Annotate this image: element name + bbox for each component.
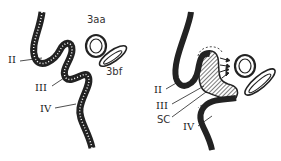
swollen-region	[199, 51, 238, 100]
label-III-right: III	[156, 100, 168, 111]
structure-elongated-right	[242, 65, 279, 99]
left-panel: II III IV 3aa 3bf	[8, 12, 129, 148]
diagram-canvas: II III IV 3aa 3bf	[0, 0, 281, 161]
label-II-left: II	[8, 54, 16, 65]
label-II-right: II	[154, 84, 162, 95]
label-III-left: III	[35, 82, 47, 93]
label-3bf: 3bf	[106, 66, 123, 77]
structure-3aa-ring	[86, 35, 106, 57]
label-SC: SC	[157, 114, 170, 125]
label-IV-left: IV	[40, 103, 52, 114]
arrows-outward	[220, 58, 230, 78]
right-panel: II III SC IV	[154, 12, 278, 150]
label-3aa: 3aa	[87, 14, 106, 25]
label-IV-right: IV	[183, 121, 195, 132]
structure-ring-right	[235, 55, 255, 77]
